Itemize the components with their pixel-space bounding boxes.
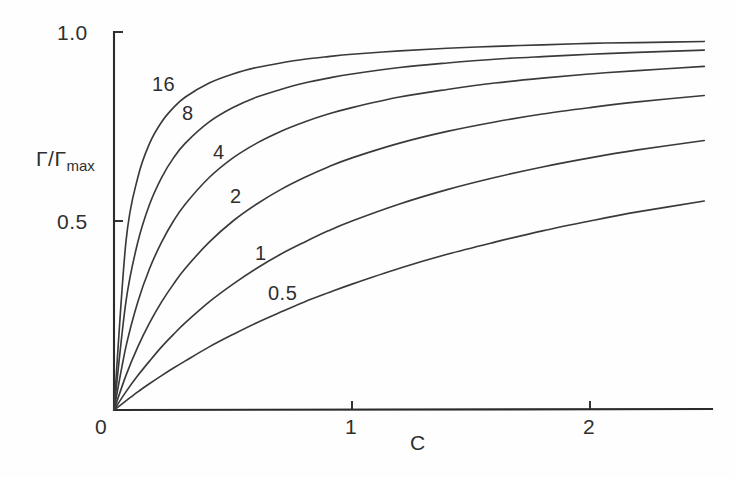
x-tick-label-1: 1 [345, 416, 357, 437]
curve-K-2 [114, 96, 704, 411]
x-axis-line [114, 409, 712, 410]
curve-label-1: 1 [255, 243, 267, 263]
y-axis-title-main: Γ/Γ [36, 147, 66, 170]
curve-label-4: 4 [213, 142, 225, 162]
curve-K-4 [114, 66, 704, 410]
y-axis-title-subscript: max [66, 157, 94, 174]
x-tick-label-2: 2 [583, 416, 595, 437]
y-axis-title: Γ/Γmax [36, 148, 95, 173]
curve-K-0.5 [114, 201, 704, 410]
curve-label-16: 16 [152, 74, 175, 94]
curve-label-2: 2 [230, 186, 242, 206]
curve-K-1 [114, 140, 704, 410]
figure-container: 1.0 0.5 0 1 2 Γ/Γmax C 1684210.5 [0, 0, 735, 477]
plot-area [0, 0, 735, 477]
x-axis-title: C [410, 432, 426, 453]
curve-group [114, 41, 704, 410]
y-tick-label-0: 0 [95, 416, 107, 437]
curve-label-8: 8 [182, 103, 194, 123]
y-tick-label-0.5: 0.5 [57, 211, 88, 232]
curve-label-0.5: 0.5 [268, 283, 297, 303]
curve-K-16 [114, 41, 704, 410]
y-tick-label-1.0: 1.0 [57, 22, 88, 43]
